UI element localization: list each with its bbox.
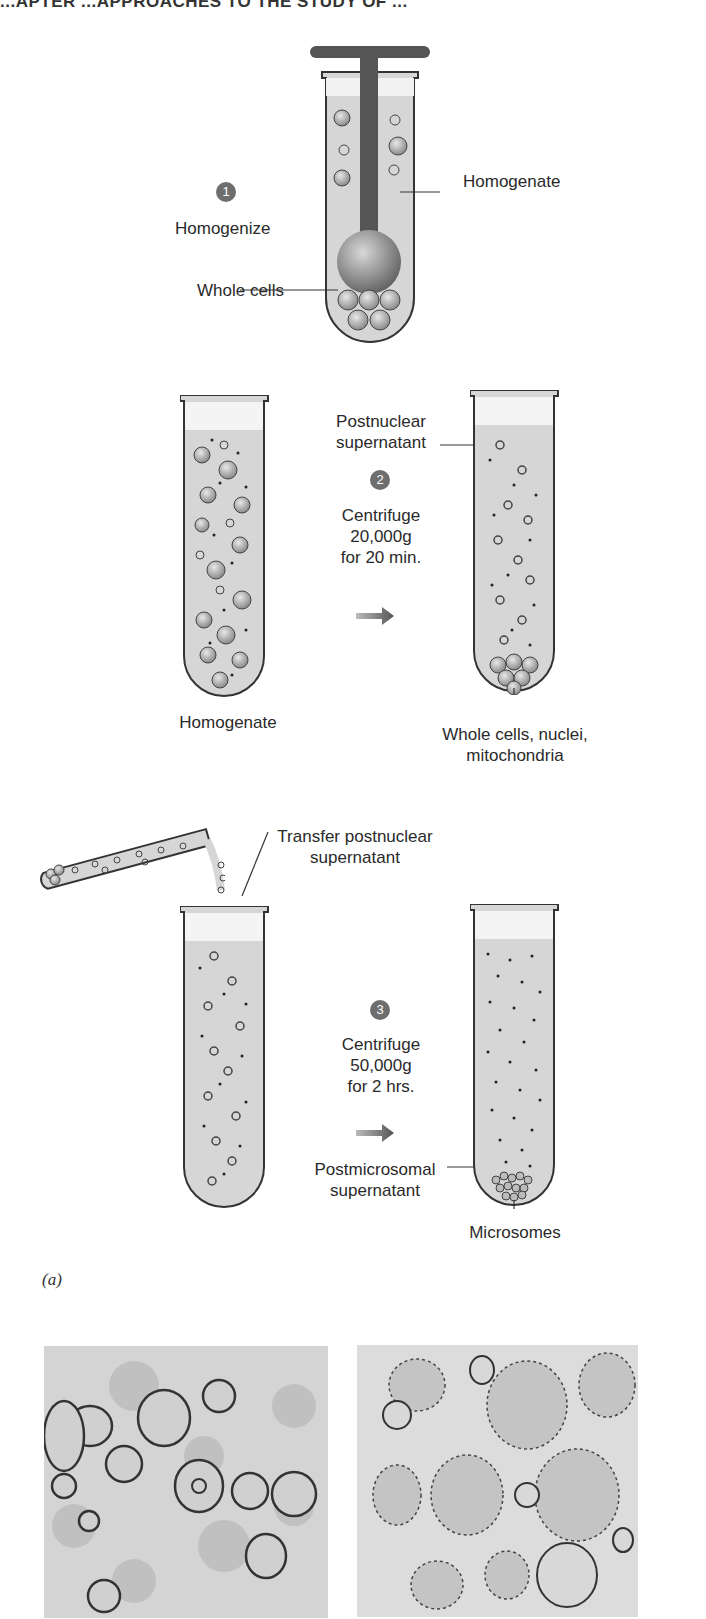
- centrifuge-2-line1: Centrifuge: [326, 505, 436, 526]
- microsomes-label: Microsomes: [450, 1222, 580, 1243]
- transfer-tube: [180, 906, 270, 1211]
- step-3-badge: 3: [370, 1000, 390, 1020]
- pellet-2-label-line1: Whole cells, nuclei,: [430, 724, 600, 745]
- whole-cells-label: Whole cells: [197, 280, 284, 301]
- homogenizer-illustration: [300, 40, 440, 350]
- homogenate-tube: [180, 395, 270, 700]
- centrifuge-3-line3: for 2 hrs.: [326, 1076, 436, 1097]
- transfer-label-line2: supernatant: [265, 847, 445, 868]
- micrograph-b: [44, 1346, 328, 1618]
- centrifuge-3-line2: 50,000g: [326, 1055, 436, 1076]
- running-header: ...APTER ...APPROACHES TO THE STUDY OF .…: [0, 0, 408, 12]
- pouring-tube: [35, 810, 225, 900]
- postnuclear-label-line2: supernatant: [326, 432, 436, 453]
- pellet-2-label-line2: mitochondria: [430, 745, 600, 766]
- step-2-badge: 2: [370, 470, 390, 490]
- panel-label-a: (a): [42, 1270, 62, 1290]
- postnuclear-label-line1: Postnuclear: [326, 411, 436, 432]
- micrograph-c: [357, 1345, 638, 1617]
- centrifuge-2-line3: for 20 min.: [326, 547, 436, 568]
- arrow-right-icon: [356, 1124, 396, 1142]
- postmicrosomal-label-line1: Postmicrosomal: [305, 1159, 445, 1180]
- arrow-right-icon: [356, 607, 396, 625]
- homogenize-label: Homogenize: [175, 218, 270, 239]
- homogenate-tube-label: Homogenate: [173, 712, 283, 733]
- centrifuge-2-line2: 20,000g: [326, 526, 436, 547]
- centrifuge-3-line1: Centrifuge: [326, 1034, 436, 1055]
- step-1-badge: 1: [216, 182, 236, 202]
- homogenate-label: Homogenate: [463, 171, 560, 192]
- microsome-tube: [470, 904, 560, 1209]
- postmicrosomal-label-line2: supernatant: [305, 1180, 445, 1201]
- transfer-label-line1: Transfer postnuclear: [265, 826, 445, 847]
- postnuclear-tube: [470, 390, 560, 695]
